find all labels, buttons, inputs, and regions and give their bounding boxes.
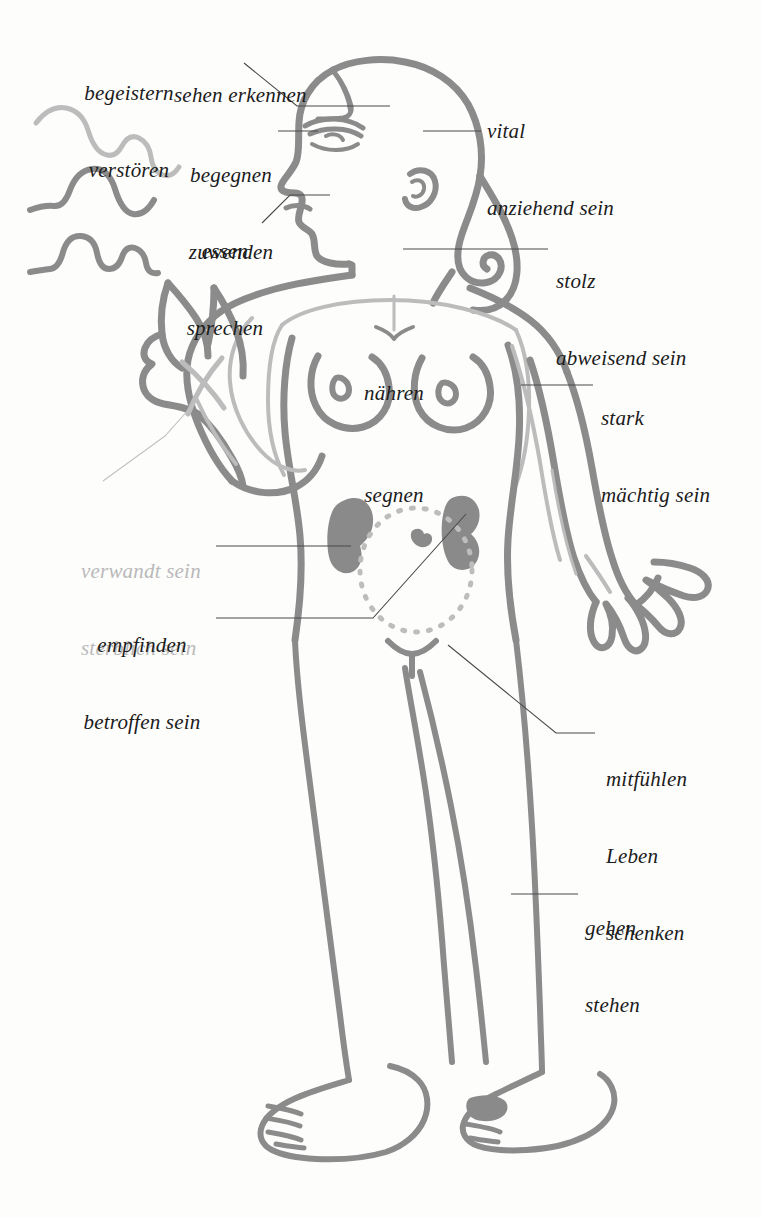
hair-bottom	[473, 300, 506, 311]
hand-palm-lower	[198, 414, 243, 486]
foot-right-toes-lines	[466, 1124, 500, 1142]
head-profile	[281, 60, 517, 303]
label-line: gehen	[585, 916, 640, 942]
leg-right-outer	[516, 640, 542, 1072]
leg-left-inner	[405, 668, 452, 1062]
eye-lower-lid	[312, 144, 358, 150]
legs	[260, 640, 614, 1159]
label-line: sehen erkennen	[174, 83, 307, 109]
label-line: nähren	[336, 381, 452, 407]
label-line: vital	[487, 119, 614, 145]
label-empfinden-betroffen-sein: empfinden betroffen sein	[62, 582, 222, 787]
label-line: empfinden	[62, 633, 222, 659]
label-segnen: segnen	[336, 432, 452, 560]
label-line: betroffen sein	[62, 710, 222, 736]
ear	[405, 170, 436, 208]
eye-pupil	[326, 134, 343, 140]
label-line: sprechen	[160, 316, 290, 342]
label-gehen-stehen: gehen stehen	[585, 865, 640, 1070]
hand-fingers-right	[590, 562, 708, 651]
foot-right-toes	[466, 1095, 507, 1121]
neck-back	[433, 272, 452, 303]
label-line: mitfühlen	[606, 767, 687, 793]
aura-wave-bottom	[30, 236, 158, 273]
leg-left-outer	[295, 640, 349, 1080]
torso-outline-right	[507, 345, 519, 640]
label-line: stolz	[556, 269, 687, 295]
label-line: segnen	[336, 483, 452, 509]
hair-crown	[333, 60, 482, 176]
ear-inner	[412, 180, 424, 196]
label-line: stark	[601, 406, 710, 432]
label-line: stehen	[585, 993, 640, 1019]
illustration-page: .s { fill:none; stroke:#8b8b8b; stroke-l…	[0, 0, 761, 1218]
shoulder-right	[470, 288, 567, 372]
label-line: verwandt sein	[81, 559, 201, 585]
leg-right-inner	[420, 672, 486, 1062]
label-line: begegnen	[160, 163, 302, 189]
label-line: essen	[160, 239, 290, 265]
label-line: mächtig sein	[601, 483, 710, 509]
label-stark-maechtig-sein: stark mächtig sein	[601, 355, 710, 560]
inner-contour-chest	[282, 300, 516, 330]
label-essen-sprechen: essen sprechen	[160, 188, 290, 393]
